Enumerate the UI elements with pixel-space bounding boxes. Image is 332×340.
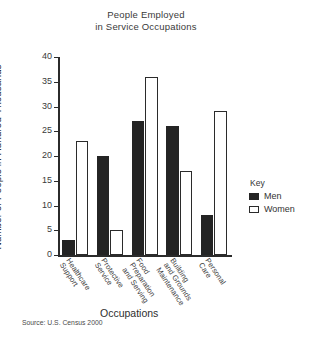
y-tick-label: 40 (42, 51, 52, 61)
bar-women-1 (110, 230, 123, 255)
x-axis-title: Occupations (100, 307, 158, 319)
x-category-label-3: Buildingand GroundsMaintenance (154, 257, 199, 308)
x-category-label-1: ProtectiveService (92, 257, 125, 294)
y-tick-label: 0 (47, 249, 52, 259)
chart-title-line-2: in Service Occupations (46, 21, 246, 33)
x-axis-category-labels: HealthcareSupportProtectiveServiceFoodPr… (58, 257, 238, 312)
legend-item-men: Men (249, 191, 295, 201)
bar-men-0 (62, 240, 75, 255)
chart-title: People Employed in Service Occupations (46, 9, 246, 33)
legend-label-women: Women (264, 204, 295, 214)
bar-men-4 (201, 215, 214, 255)
bar-men-3 (166, 126, 179, 255)
y-tick-label: 15 (42, 175, 52, 185)
y-tick-label: 35 (42, 76, 52, 86)
x-category-label-0: HealthcareSupport (57, 257, 91, 297)
x-category-label-4: PersonalCare (196, 257, 227, 291)
bar-women-2 (145, 77, 158, 255)
bar-women-3 (180, 171, 193, 255)
y-tick-mark (54, 255, 58, 256)
legend-item-women: Women (249, 204, 295, 214)
y-tick-label: 10 (42, 200, 52, 210)
chart-root: People Employed in Service Occupations N… (0, 0, 332, 340)
source-note: Source: U.S. Census 2000 (22, 319, 102, 326)
y-tick-label: 5 (47, 224, 52, 234)
chart-title-line-1: People Employed (46, 9, 246, 21)
y-axis-title: Number of People in Hundred-Thousands (0, 42, 3, 272)
y-tick-label: 30 (42, 101, 52, 111)
legend-swatch-women-icon (249, 206, 259, 213)
plot-area: 0510152025303540 (58, 57, 231, 255)
legend: Key Men Women (249, 178, 295, 217)
y-tick-label: 20 (42, 150, 52, 160)
x-category-label-2: FoodPreparationand Serving (120, 257, 164, 305)
legend-swatch-men-icon (249, 193, 259, 200)
bar-women-4 (214, 111, 227, 255)
legend-title: Key (249, 178, 295, 188)
bar-group-container (58, 57, 231, 255)
legend-label-men: Men (264, 191, 282, 201)
bar-men-2 (132, 121, 145, 255)
y-tick-label: 25 (42, 125, 52, 135)
bar-women-0 (76, 141, 89, 255)
bar-men-1 (97, 156, 110, 255)
